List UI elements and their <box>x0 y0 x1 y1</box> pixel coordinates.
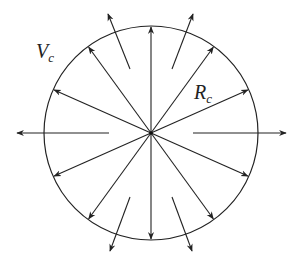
radial-vector-diagram: Vc Rc <box>0 0 302 263</box>
radius-label: Rc <box>193 81 212 106</box>
outward-arrow <box>110 197 130 251</box>
radius-arrow <box>151 133 213 219</box>
outward-arrow <box>172 197 192 251</box>
radius-arrow <box>54 133 151 176</box>
radius-arrow <box>54 90 151 133</box>
velocity-label: Vc <box>36 40 54 65</box>
radius-arrow <box>151 133 248 176</box>
center-point <box>149 131 153 135</box>
outward-arrow <box>172 14 193 69</box>
radius-arrow <box>89 47 151 133</box>
outward-arrow <box>108 14 130 69</box>
radius-arrow <box>89 133 151 219</box>
